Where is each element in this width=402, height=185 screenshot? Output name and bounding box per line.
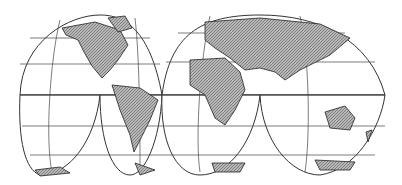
world-map xyxy=(0,0,402,185)
